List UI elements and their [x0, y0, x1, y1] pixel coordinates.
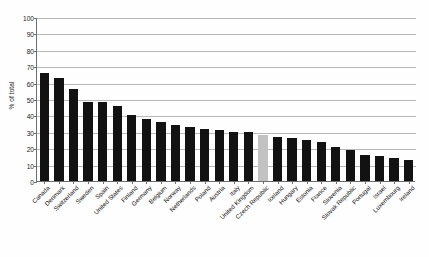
y-tick-label: 70: [27, 64, 34, 71]
bar-slot[interactable]: [375, 17, 384, 181]
bar[interactable]: [273, 137, 282, 181]
bar-slot[interactable]: [360, 17, 369, 181]
y-tick-label: 30: [27, 129, 34, 136]
bar-slot[interactable]: [317, 17, 326, 181]
bar-slot[interactable]: [244, 17, 253, 181]
bar[interactable]: [229, 132, 238, 181]
bar[interactable]: [389, 158, 398, 181]
bar[interactable]: [54, 78, 63, 181]
bar[interactable]: [127, 115, 136, 181]
bar-slot[interactable]: [229, 17, 238, 181]
bar-slot[interactable]: [389, 17, 398, 181]
y-tick-label: 80: [27, 47, 34, 54]
y-tick-label: 90: [27, 31, 34, 38]
bar[interactable]: [287, 138, 296, 181]
bar-slot[interactable]: [98, 17, 107, 181]
y-tick-label: 50: [27, 97, 34, 104]
bar[interactable]: [375, 156, 384, 181]
bar-slot[interactable]: [185, 17, 194, 181]
bar-slot[interactable]: [200, 17, 209, 181]
y-tick-label: 40: [27, 113, 34, 120]
bar-chart: % of total 0102030405060708090100 Canada…: [0, 0, 429, 257]
bar-slot[interactable]: [302, 17, 311, 181]
bar[interactable]: [331, 147, 340, 181]
bar[interactable]: [171, 125, 180, 181]
bar[interactable]: [346, 150, 355, 181]
bar[interactable]: [360, 155, 369, 181]
bar[interactable]: [404, 160, 413, 181]
x-axis-labels: CanadaDenmarkSwitzerlandSwedenSpainUnite…: [36, 184, 415, 257]
y-tick-label: 10: [27, 162, 34, 169]
y-axis-title: % of total: [8, 61, 15, 131]
bar-slot[interactable]: [40, 17, 49, 181]
bar[interactable]: [317, 142, 326, 181]
bar[interactable]: [142, 119, 151, 181]
bar-slot[interactable]: [142, 17, 151, 181]
y-tick-label: 60: [27, 80, 34, 87]
bar-slot[interactable]: [156, 17, 165, 181]
bar-series: [37, 17, 416, 181]
bar-slot[interactable]: [69, 17, 78, 181]
bar-slot[interactable]: [113, 17, 122, 181]
bar[interactable]: [69, 89, 78, 181]
bar-slot[interactable]: [404, 17, 413, 181]
bar[interactable]: [40, 73, 49, 181]
bar-slot[interactable]: [287, 17, 296, 181]
bar-slot[interactable]: [258, 17, 267, 181]
bar[interactable]: [215, 130, 224, 181]
bar[interactable]: [98, 102, 107, 181]
bar-slot[interactable]: [273, 17, 282, 181]
bar[interactable]: [83, 102, 92, 181]
bar-slot[interactable]: [54, 17, 63, 181]
bar-slot[interactable]: [83, 17, 92, 181]
y-tick-label: 20: [27, 146, 34, 153]
bar-slot[interactable]: [346, 17, 355, 181]
bar-slot[interactable]: [171, 17, 180, 181]
bar-slot[interactable]: [331, 17, 340, 181]
bar-slot[interactable]: [215, 17, 224, 181]
bar[interactable]: [200, 129, 209, 181]
bar[interactable]: [156, 122, 165, 181]
bar[interactable]: [244, 132, 253, 181]
y-tick-label: 0: [30, 179, 34, 186]
bar-slot[interactable]: [127, 17, 136, 181]
bar[interactable]: [113, 106, 122, 181]
bar[interactable]: [185, 127, 194, 181]
y-tick-mark: [34, 182, 37, 183]
bar[interactable]: [302, 140, 311, 181]
plot-area: 0102030405060708090100: [36, 18, 415, 182]
y-tick-label: 100: [23, 15, 34, 22]
bar[interactable]: [258, 135, 267, 181]
